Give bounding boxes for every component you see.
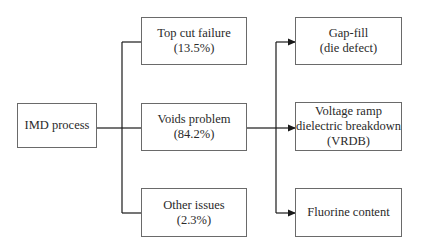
node-label: Other issues [163,198,224,213]
node-gap-fill: Gap-fill (die defect) [295,17,402,65]
node-voids-problem: Voids problem (84.2%) [141,103,247,151]
node-label-line1: Gap-fill [329,26,369,41]
node-label: Top cut failure [157,26,230,41]
node-label-line1: Fluorine content [307,205,389,220]
node-other-issues: Other issues (2.3%) [141,188,247,237]
node-vrdb: Voltage ramp dielectric breakdown (VRDB) [295,102,402,151]
node-top-cut-failure: Top cut failure (13.5%) [141,17,247,65]
node-label-line3: (VRDB) [327,134,370,149]
node-label-line2: (die defect) [320,41,377,56]
node-percent: (84.2%) [174,127,215,142]
node-imd-process: IMD process [17,103,97,148]
node-label: Voids problem [157,112,230,127]
node-fluorine-content: Fluorine content [295,188,402,237]
node-label-line2: dielectric breakdown [296,119,401,134]
node-percent: (13.5%) [174,41,215,56]
node-label: IMD process [25,118,90,133]
node-percent: (2.3%) [177,213,211,228]
node-label-line1: Voltage ramp [315,104,382,119]
